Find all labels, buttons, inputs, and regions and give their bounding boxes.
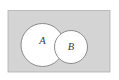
venn-diagram-figure: A B: [0, 0, 119, 80]
set-b-label: B: [68, 41, 75, 52]
venn-diagram-canvas: A B: [0, 0, 119, 80]
set-a-label: A: [38, 35, 46, 46]
